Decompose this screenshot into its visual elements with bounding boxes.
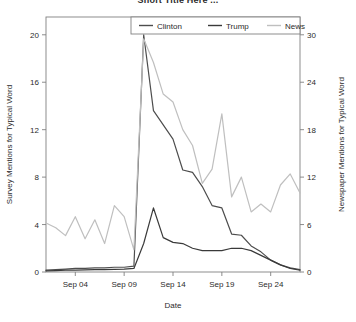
y-axis-tick-label-left: 8	[35, 173, 40, 182]
x-axis-tick-label: Sep 24	[258, 280, 284, 289]
y-axis-tick-label-left: 0	[35, 268, 40, 277]
legend-label-trump: Trump	[226, 22, 249, 31]
data-line-news	[46, 39, 300, 250]
x-axis-tick-label: Sep 04	[63, 280, 89, 289]
x-axis-tick-label: Sep 09	[111, 280, 137, 289]
y-axis-tick-label-right: 0	[307, 268, 312, 277]
x-axis-tick-label: Sep 14	[160, 280, 186, 289]
y-axis-tick-label-left: 4	[35, 221, 40, 230]
data-line-clinton	[46, 35, 300, 270]
y-axis-tick-label-left: 12	[30, 126, 39, 135]
y-axis-tick-label-right: 12	[307, 173, 316, 182]
y-axis-title-right: Newspaper Mentions for Typical Word	[337, 77, 346, 212]
y-axis-tick-label-right: 18	[307, 126, 316, 135]
legend-label-news: News	[285, 22, 305, 31]
x-axis-title: Date	[165, 301, 182, 310]
plot-frame	[46, 17, 300, 272]
legend-label-clinton: Clinton	[157, 22, 182, 31]
data-line-trump	[46, 208, 300, 271]
y-axis-title-left: Survey Mentions for Typical Word	[5, 85, 14, 204]
y-axis-tick-label-right: 6	[307, 221, 312, 230]
chart-canvas: 0481216200612182430Sep 04Sep 09Sep 14Sep…	[0, 0, 356, 322]
x-axis-tick-label: Sep 19	[209, 280, 235, 289]
y-axis-tick-label-right: 24	[307, 78, 316, 87]
y-axis-tick-label-right: 30	[307, 31, 316, 40]
y-axis-tick-label-left: 16	[30, 78, 39, 87]
y-axis-tick-label-left: 20	[30, 31, 39, 40]
chart-figure: Short Title Here ... 0481216200612182430…	[0, 0, 356, 322]
